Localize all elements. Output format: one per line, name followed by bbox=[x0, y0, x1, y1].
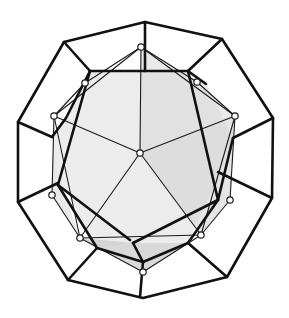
vertex-marker bbox=[140, 269, 146, 275]
vertex-marker bbox=[49, 192, 55, 198]
vertex-marker bbox=[138, 44, 144, 50]
vertex-marker bbox=[227, 197, 233, 203]
center-vertex-marker bbox=[137, 150, 143, 156]
vertex-marker bbox=[198, 232, 204, 238]
vertex-marker bbox=[82, 80, 88, 86]
dodecahedron-icosahedron-diagram bbox=[0, 0, 289, 318]
vertex-marker bbox=[232, 113, 238, 119]
vertex-marker bbox=[194, 79, 200, 85]
vertex-marker bbox=[51, 113, 57, 119]
vertex-marker bbox=[77, 235, 83, 241]
